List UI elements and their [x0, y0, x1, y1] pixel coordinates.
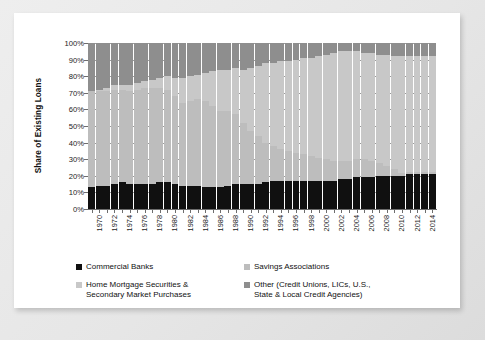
bar-segment — [262, 182, 269, 209]
x-axis-tick-label: 1994 — [276, 215, 285, 231]
bar-column — [429, 43, 436, 209]
bar-segment — [383, 166, 390, 176]
bar-segment — [217, 43, 224, 70]
x-axis-tick-mark — [379, 209, 380, 213]
bar-column — [164, 43, 171, 209]
bar-column — [232, 43, 239, 209]
x-axis-tick-mark — [326, 209, 327, 213]
bar-segment — [126, 184, 133, 209]
bar-segment — [285, 181, 292, 209]
bar-segment — [232, 68, 239, 114]
bar-segment — [164, 182, 171, 209]
bar-column — [293, 43, 300, 209]
bar-segment — [277, 149, 284, 181]
bar-segment — [247, 43, 254, 68]
x-axis-tick-mark — [372, 209, 373, 213]
bar-segment — [232, 184, 239, 209]
bar-segment — [391, 176, 398, 209]
bar-segment — [293, 153, 300, 181]
bar-segment — [141, 184, 148, 209]
bar-segment — [300, 181, 307, 209]
bar-segment — [300, 58, 307, 154]
x-axis-tick-label: 1998 — [307, 215, 316, 231]
x-axis-tick-mark — [258, 209, 259, 213]
legend-item: Home Mortgage Securities &Secondary Mark… — [76, 280, 244, 301]
bar-column — [224, 43, 231, 209]
x-axis-tick-mark — [167, 209, 168, 213]
bar-segment — [300, 154, 307, 181]
bar-column — [217, 43, 224, 209]
x-axis-tick-mark — [394, 209, 395, 213]
bar-segment — [277, 61, 284, 149]
bar-segment — [202, 73, 209, 101]
x-axis-tick-mark — [130, 209, 131, 213]
bar-segment — [293, 181, 300, 209]
bar-column — [141, 43, 148, 209]
y-axis-tick-label: 30% — [44, 155, 84, 164]
y-axis-tick-mark — [84, 192, 88, 193]
bar-segment — [194, 43, 201, 75]
bar-segment — [330, 181, 337, 209]
bar-column — [88, 43, 95, 209]
y-axis-tick-label: 0% — [44, 205, 84, 214]
bar-segment — [361, 159, 368, 177]
bar-segment — [194, 75, 201, 100]
bar-column — [202, 43, 209, 209]
x-axis-tick-mark — [236, 209, 237, 213]
x-axis-tick-label: 2002 — [337, 215, 346, 231]
bar-column — [255, 43, 262, 209]
legend-label: Home Mortgage Securities &Secondary Mark… — [86, 280, 191, 301]
bar-segment — [217, 70, 224, 112]
bar-segment — [353, 177, 360, 209]
bar-segment — [323, 55, 330, 160]
bar-segment — [209, 106, 216, 187]
y-axis-tick-label: 90% — [44, 56, 84, 65]
bar-segment — [262, 63, 269, 143]
bar-column — [398, 43, 405, 209]
x-axis-tick-label: 2010 — [397, 215, 406, 231]
x-axis-tick-label: 2006 — [367, 215, 376, 231]
bar-segment — [398, 43, 405, 56]
bar-segment — [255, 184, 262, 209]
x-axis-tick-label: 2014 — [428, 215, 437, 231]
y-axis-tick-label: 40% — [44, 139, 84, 148]
x-axis-tick-mark — [92, 209, 93, 213]
bar-segment — [368, 177, 375, 209]
x-axis-tick-mark — [341, 209, 342, 213]
bar-column — [414, 43, 421, 209]
bar-segment — [353, 43, 360, 51]
bar-column — [270, 43, 277, 209]
y-axis-tick-label: 80% — [44, 72, 84, 81]
bar-segment — [323, 159, 330, 181]
x-axis-tick-label: 1982 — [186, 215, 195, 231]
bar-segment — [345, 161, 352, 179]
x-axis-tick-label: 1976 — [140, 215, 149, 231]
bar-segment — [421, 43, 428, 56]
bar-segment — [406, 43, 413, 56]
y-axis-tick-mark — [84, 76, 88, 77]
bar-segment — [247, 184, 254, 209]
bar-segment — [277, 43, 284, 61]
bar-segment — [134, 83, 141, 90]
bar-column — [391, 43, 398, 209]
x-axis-tick-label: 1990 — [246, 215, 255, 231]
y-axis-tick-mark — [84, 176, 88, 177]
x-axis-tick-label: 2004 — [352, 215, 361, 231]
legend-label: Other (Credit Unions, LICs, U.S.,State &… — [254, 280, 370, 301]
bar-segment — [232, 114, 239, 184]
bar-segment — [126, 91, 133, 184]
bar-segment — [202, 43, 209, 73]
bar-segment — [368, 43, 375, 53]
bar-segment — [315, 43, 322, 56]
bar-segment — [103, 91, 110, 186]
bar-segment — [338, 179, 345, 209]
bar-segment — [338, 51, 345, 161]
bar-segment — [345, 179, 352, 209]
x-axis-tick-mark — [99, 209, 100, 213]
x-axis-tick-mark — [432, 209, 433, 213]
x-axis-tick-label: 2000 — [322, 215, 331, 231]
x-axis-tick-mark — [364, 209, 365, 213]
bar-column — [330, 43, 337, 209]
bar-segment — [315, 181, 322, 209]
bar-segment — [172, 78, 179, 96]
